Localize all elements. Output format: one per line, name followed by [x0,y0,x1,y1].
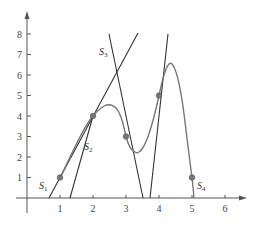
x-tick-label: 2 [91,203,96,214]
point-2 [90,113,96,119]
point-5 [189,175,195,181]
y-tick-label: 1 [17,172,22,183]
label-s4: S4 [197,180,206,193]
y-tick-label: 4 [17,111,22,122]
y-ticks [27,34,31,178]
y-tick-label: 2 [17,152,22,163]
label-s3: S3 [99,46,108,59]
x-tick-label: 6 [223,203,228,214]
secant-s2 [70,116,93,198]
point-1 [57,175,63,181]
x-axis-arrow-icon [239,196,247,201]
x-tick-label: 5 [190,203,195,214]
y-tick-label: 8 [17,29,22,40]
point-4 [156,93,162,99]
y-tick-label: 3 [17,131,22,142]
diagram-canvas: 1 2 3 4 5 6 1 2 3 4 5 6 7 8 S1 S2 S3 S4 [0,0,257,226]
y-tick-label: 6 [17,70,22,81]
function-curve [60,63,194,198]
label-s1: S1 [39,180,48,193]
point-3 [123,134,129,140]
x-tick-label: 4 [157,203,162,214]
y-axis-arrow-icon [25,11,30,19]
y-tick-label: 7 [17,49,22,60]
x-tick-label: 3 [124,203,129,214]
secant-s4 [150,34,168,198]
label-s2: S2 [84,141,93,154]
x-tick-label: 1 [58,203,63,214]
y-tick-label: 5 [17,90,22,101]
secant-s3 [109,34,143,198]
